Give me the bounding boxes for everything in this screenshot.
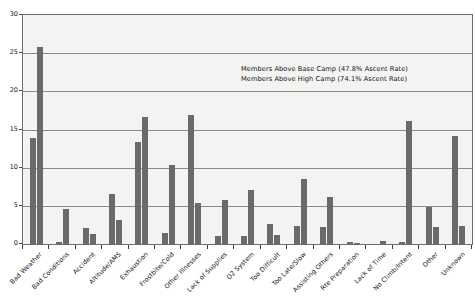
x-axis-tick [418, 245, 419, 249]
x-axis-tick [365, 245, 366, 249]
bar [56, 242, 62, 244]
x-axis-label: Unknown [440, 251, 466, 277]
bar [354, 243, 360, 244]
bar [274, 235, 280, 244]
bar [30, 138, 36, 244]
bar [426, 207, 432, 244]
y-tick-label: 5 [14, 202, 18, 209]
bar-group [188, 15, 201, 244]
x-axis-tick [101, 245, 102, 249]
x-axis-tick [154, 245, 155, 249]
annotation-line-1: Members Above Base Camp (47.8% Ascent Ra… [241, 65, 408, 75]
bar [320, 227, 326, 244]
bar-group [452, 15, 465, 244]
bar [135, 142, 141, 244]
bar [116, 220, 122, 244]
x-axis-tick [313, 245, 314, 249]
y-tick-mark [19, 90, 22, 91]
bar [399, 242, 405, 244]
bar [109, 194, 115, 244]
bar-group [30, 15, 43, 244]
x-axis-tick [471, 245, 472, 249]
y-tick-mark [19, 52, 22, 53]
annotation-line-2: Members Above High Camp (74.1% Ascent Ra… [241, 75, 408, 85]
bar [142, 117, 148, 244]
bar [63, 209, 69, 244]
bar [452, 136, 458, 244]
x-axis-tick [339, 245, 340, 249]
bar-group [135, 15, 148, 244]
x-axis-tick [180, 245, 181, 249]
y-tick-mark [19, 129, 22, 130]
y-tick-mark [19, 167, 22, 168]
x-axis-tick [22, 245, 23, 249]
bar [90, 234, 96, 244]
bar [37, 47, 43, 244]
bar-group [83, 15, 96, 244]
chart-annotation: Members Above Base Camp (47.8% Ascent Ra… [241, 65, 408, 84]
bar-group [162, 15, 175, 244]
bar-group [294, 15, 307, 244]
bar-group [347, 15, 360, 244]
bar-group [241, 15, 254, 244]
y-tick-label: 20 [10, 87, 18, 94]
bar-group [320, 15, 333, 244]
y-tick-mark [19, 243, 22, 244]
chart-screenshot: Members Above Base Camp (47.8% Ascent Ra… [0, 0, 475, 305]
x-axis-tick [75, 245, 76, 249]
x-axis-tick [392, 245, 393, 249]
bar [459, 226, 465, 244]
bar [195, 203, 201, 244]
bar-group [56, 15, 69, 244]
y-axis: 051015202530 [0, 14, 22, 245]
bar [188, 115, 194, 244]
y-tick-label: 25 [10, 49, 18, 56]
bar-group [267, 15, 280, 244]
x-axis-tick [128, 245, 129, 249]
bar [241, 236, 247, 244]
bar [294, 226, 300, 244]
bar [301, 179, 307, 244]
bar [222, 200, 228, 244]
bar [248, 190, 254, 244]
x-axis-tick [233, 245, 234, 249]
bar-group [215, 15, 228, 244]
y-tick-mark [19, 14, 22, 15]
bar [406, 121, 412, 244]
x-axis-tick [260, 245, 261, 249]
bar-group [109, 15, 122, 244]
bar [215, 236, 221, 244]
bar [169, 165, 175, 244]
bar [380, 241, 386, 244]
x-axis-tick [48, 245, 49, 249]
bars-container [23, 15, 472, 244]
x-axis-label: Other [422, 251, 440, 269]
y-tick-label: 10 [10, 164, 18, 171]
plot-area: Members Above Base Camp (47.8% Ascent Ra… [22, 14, 473, 245]
bar-group [426, 15, 439, 244]
y-tick-label: 30 [10, 11, 18, 18]
bar [267, 224, 273, 244]
bar [433, 227, 439, 244]
bar [347, 242, 353, 244]
x-axis-tick [286, 245, 287, 249]
x-axis: Bad WeatherBad ConditionsAccidentAltitud… [22, 245, 473, 305]
bar-group [399, 15, 412, 244]
y-tick-mark [19, 205, 22, 206]
y-tick-label: 0 [14, 240, 18, 247]
bar [327, 197, 333, 244]
x-axis-tick [207, 245, 208, 249]
y-tick-label: 15 [10, 126, 18, 133]
bar [83, 228, 89, 244]
x-axis-tick [445, 245, 446, 249]
x-axis-label: Accident [72, 251, 97, 276]
bar [162, 233, 168, 244]
bar-group [373, 15, 386, 244]
